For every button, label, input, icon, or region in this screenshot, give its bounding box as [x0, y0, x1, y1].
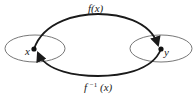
- label-x: x: [24, 45, 30, 57]
- label-forward-function: f(x): [88, 2, 104, 15]
- inverse-mapping-arrow: [38, 49, 161, 76]
- inverse-function-diagram: x y f(x) f −1 (x): [0, 0, 196, 104]
- inverse-base: f: [84, 81, 89, 93]
- point-x: [31, 46, 36, 51]
- label-inverse-function: f −1 (x): [84, 77, 113, 94]
- point-y: [158, 46, 163, 51]
- forward-mapping-arrow: [34, 14, 158, 49]
- diagram-canvas: x y f(x) f −1 (x): [0, 0, 196, 104]
- inverse-argument: (x): [100, 81, 113, 94]
- inverse-superscript: −1: [90, 81, 98, 89]
- label-y: y: [163, 46, 169, 58]
